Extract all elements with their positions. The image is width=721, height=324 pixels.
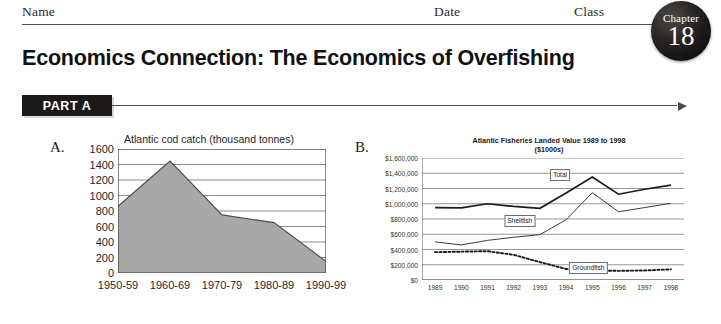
chart-a-plot-area [118, 149, 326, 273]
header-divider-rule [22, 24, 677, 25]
chart-b-series-callout-groundfish: Groundfish [569, 262, 607, 274]
chart-b-y-tick: $600,000 [390, 231, 418, 238]
chart-a-y-tick: 1200 [90, 174, 114, 186]
chart-a-x-axis-labels: 1950-591960-691970-791980-891990-99 [118, 279, 326, 295]
chart-a-y-tick: 1400 [90, 159, 114, 171]
part-divider-rule [112, 105, 677, 106]
chart-b-plot-area: Total Shellfish Groundfish [422, 158, 684, 280]
chart-b-y-tick: $1,000,000 [385, 200, 418, 207]
chart-b-title: Atlantic Fisheries Landed Value 1989 to … [404, 136, 694, 145]
chart-a-atlantic-cod-catch: Atlantic cod catch (thousand tonnes) 160… [78, 133, 340, 313]
chart-b-atlantic-fisheries-landed-value: Atlantic Fisheries Landed Value 1989 to … [374, 136, 714, 316]
chart-b-x-tick: 1998 [664, 284, 679, 291]
chart-a-title: Atlantic cod catch (thousand tonnes) [78, 133, 340, 145]
chapter-badge-number: 18 [668, 23, 695, 50]
chart-b-x-tick: 1995 [585, 284, 600, 291]
chart-b-x-tick: 1997 [637, 284, 652, 291]
part-a-banner-label: PART A [43, 99, 92, 113]
chart-b-y-tick: $1,600,000 [385, 155, 418, 162]
chart-b-y-tick: $1,200,000 [385, 185, 418, 192]
chart-b-x-tick: 1994 [559, 284, 574, 291]
chart-a-x-tick: 1950-59 [98, 279, 138, 291]
chart-a-y-tick: 600 [96, 221, 114, 233]
chart-a-y-tick: 0 [108, 267, 114, 279]
panel-label-b: B. [355, 139, 369, 156]
chart-a-svg [118, 149, 326, 273]
chart-b-series-callout-shellfish: Shellfish [504, 215, 535, 227]
chart-a-x-tick: 1970-79 [202, 279, 242, 291]
chart-a-y-tick: 1000 [90, 190, 114, 202]
chart-b-subtitle: ($1000s) [404, 145, 694, 154]
chart-b-y-tick: $1,400,000 [385, 170, 418, 177]
chart-b-y-tick: $200,000 [390, 261, 418, 268]
chart-b-x-tick: 1993 [533, 284, 548, 291]
panel-label-a: A. [50, 139, 65, 156]
chart-b-title-block: Atlantic Fisheries Landed Value 1989 to … [404, 136, 694, 154]
chart-b-y-tick: $400,000 [390, 246, 418, 253]
chart-b-y-tick: $0 [411, 277, 418, 284]
worksheet-header: Name Date Class [22, 4, 677, 28]
chart-a-x-tick: 1980-89 [254, 279, 294, 291]
chapter-badge: Chapter 18 [651, 1, 711, 61]
chart-a-x-tick: 1960-69 [150, 279, 190, 291]
chart-b-series-callout-total: Total [550, 169, 570, 181]
page-title: Economics Connection: The Economics of O… [22, 46, 622, 70]
chart-a-y-tick: 800 [96, 205, 114, 217]
chart-b-x-tick: 1989 [428, 284, 443, 291]
header-name-label: Name [22, 4, 55, 20]
chart-b-x-tick: 1991 [480, 284, 495, 291]
chart-a-x-tick: 1990-99 [306, 279, 346, 291]
chart-a-y-tick: 200 [96, 252, 114, 264]
chart-a-y-axis-labels: 16001400120010008006004002000 [78, 149, 114, 273]
chart-a-y-tick: 1600 [90, 143, 114, 155]
chart-b-x-tick: 1990 [454, 284, 469, 291]
header-class-label: Class [574, 4, 604, 20]
chart-b-y-axis-labels: $1,600,000$1,400,000$1,200,000$1,000,000… [374, 158, 418, 280]
chart-b-x-tick: 1996 [611, 284, 626, 291]
header-date-label: Date [434, 4, 460, 20]
chart-b-x-tick: 1992 [506, 284, 521, 291]
chart-b-x-axis-labels: 1989199019911992199319941995199619971998 [422, 284, 684, 296]
chart-a-y-tick: 400 [96, 236, 114, 248]
chart-b-y-tick: $800,000 [390, 216, 418, 223]
part-a-banner: PART A [22, 95, 112, 116]
